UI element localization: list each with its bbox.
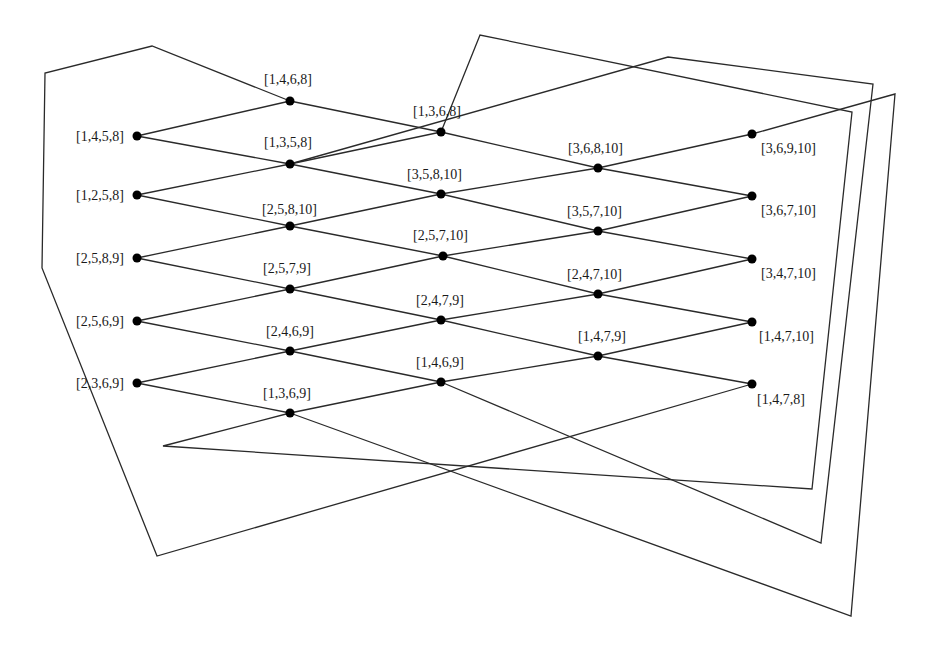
node-label: [1,4,6,9]: [416, 355, 464, 370]
node-label: [1,3,6,8]: [413, 104, 461, 119]
node-label: [1,3,5,8]: [264, 135, 312, 150]
node-dot-n36710: [748, 192, 757, 201]
node-label: [3,6,9,10]: [761, 141, 816, 156]
node-label: [2,5,6,9]: [76, 314, 124, 329]
node-dot-n1368: [437, 128, 446, 137]
node-dot-n36810: [594, 164, 603, 173]
node-dot-n36910: [748, 130, 757, 139]
node-label: [3,6,7,10]: [761, 203, 816, 218]
node-dot-n14710: [748, 318, 757, 327]
node-label: [3,6,8,10]: [568, 141, 623, 156]
edge-n1458-n1468: [137, 101, 290, 136]
edge-n2579-n25710: [290, 256, 443, 289]
node-dot-n1478: [748, 380, 757, 389]
node-label: [3,4,7,10]: [761, 266, 816, 281]
edge-n1258-n1358: [137, 164, 290, 195]
node-dot-n2589: [133, 254, 142, 263]
lattice-diagram: [1,4,5,8][1,2,5,8][2,5,8,9][2,5,6,9][2,3…: [0, 0, 926, 650]
edge-n1469-n1479: [441, 356, 598, 382]
node-dot-n1258: [133, 191, 142, 200]
node-dot-n1358: [286, 160, 295, 169]
wrap-around-paths: [42, 35, 895, 616]
node-dot-n25710: [439, 252, 448, 261]
edge-n35710-n34710: [598, 231, 752, 259]
node-dot-n35710: [594, 227, 603, 236]
node-label: [2,4,7,9]: [416, 293, 464, 308]
node-label: [2,3,6,9]: [76, 376, 124, 391]
node-dot-n1468: [286, 97, 295, 106]
node-label: [2,5,7,9]: [263, 261, 311, 276]
edge-n2479-n24710: [441, 294, 598, 320]
edge-n24710-n14710: [598, 294, 752, 322]
node-dot-n25810: [286, 222, 295, 231]
node-dot-n2569: [133, 317, 142, 326]
node-label: [1,4,7,8]: [757, 392, 805, 407]
node-label: [2,5,8,9]: [76, 251, 124, 266]
edge-n1358-n1368: [290, 132, 441, 164]
node-dot-n2469: [286, 347, 295, 356]
wrap-top-b: [290, 57, 873, 543]
node-dot-n1479: [594, 352, 603, 361]
node-label: [1,4,5,8]: [76, 129, 124, 144]
node-labels: [1,4,5,8][1,2,5,8][2,5,8,9][2,5,6,9][2,3…: [76, 72, 816, 407]
node-dot-n1458: [133, 132, 142, 141]
edge-n2569-n2579: [137, 289, 290, 321]
node-label: [2,5,7,10]: [413, 228, 468, 243]
node-label: [2,4,7,10]: [567, 267, 622, 282]
node-dot-n2369: [133, 379, 142, 388]
node-label: [1,2,5,8]: [76, 188, 124, 203]
node-dot-n35810: [437, 190, 446, 199]
node-dot-n34710: [748, 255, 757, 264]
node-label: [1,4,7,10]: [759, 329, 814, 344]
node-dot-n1469: [437, 378, 446, 387]
node-label: [2,5,8,10]: [262, 202, 317, 217]
node-dot-n1369: [286, 409, 295, 418]
node-label: [2,4,6,9]: [266, 324, 314, 339]
edge-n2369-n2469: [137, 351, 290, 383]
node-dot-n2479: [437, 316, 446, 325]
edge-n1369-n1469: [290, 382, 441, 413]
node-label: [3,5,7,10]: [567, 204, 622, 219]
edge-n36810-n36710: [598, 168, 752, 196]
node-dot-n24710: [594, 290, 603, 299]
edge-n35810-n36810: [441, 168, 598, 194]
node-label: [1,4,6,8]: [264, 72, 312, 87]
node-label: [1,4,7,9]: [578, 329, 626, 344]
node-label: [1,3,6,9]: [263, 386, 311, 401]
edge-n1479-n1478: [598, 356, 752, 384]
edge-n2479-n1479: [441, 320, 598, 356]
edge-n2589-n25810: [137, 226, 290, 258]
node-label: [3,5,8,10]: [407, 167, 462, 182]
node-dot-n2579: [286, 285, 295, 294]
